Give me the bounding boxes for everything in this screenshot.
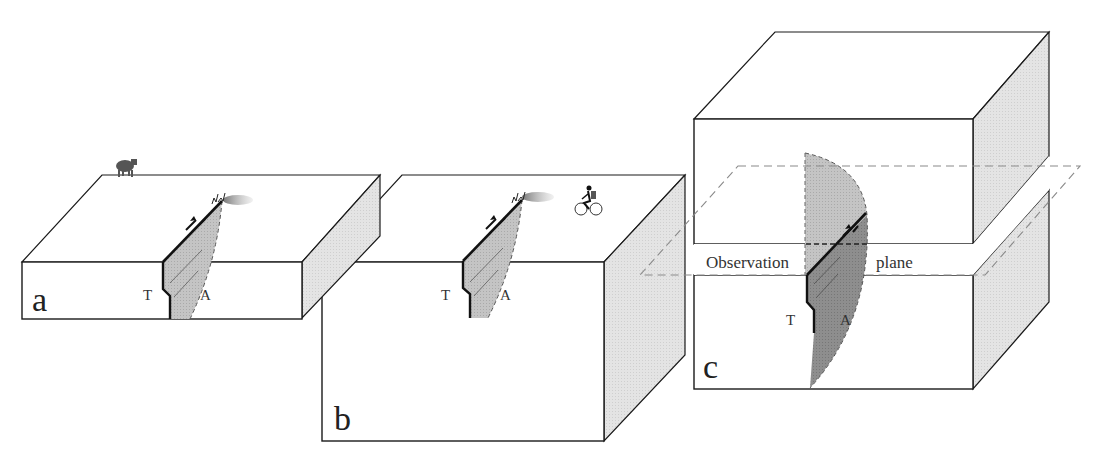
panel-c-letter: c xyxy=(703,348,718,385)
panel-b-letter: b xyxy=(334,400,351,437)
panel-c-label-a: A xyxy=(840,312,851,328)
cow-icon xyxy=(116,159,137,177)
observation-plane-label-right: plane xyxy=(876,253,913,272)
panel-c-label-t: T xyxy=(786,312,795,328)
panel-a-label-a: A xyxy=(200,287,211,303)
rupture-cloud-icon xyxy=(223,195,253,205)
fault-block-diagram: T A b T xyxy=(0,0,1103,468)
rupture-cloud-icon xyxy=(522,192,554,202)
observation-plane-label-left: Observation xyxy=(706,253,790,272)
panel-b-label-t: T xyxy=(441,287,450,303)
panel-a-letter: a xyxy=(32,281,47,318)
panel-c: Observation plane T A c xyxy=(640,32,1080,389)
panel-b-label-a: A xyxy=(500,287,511,303)
panel-a-label-t: T xyxy=(143,287,152,303)
